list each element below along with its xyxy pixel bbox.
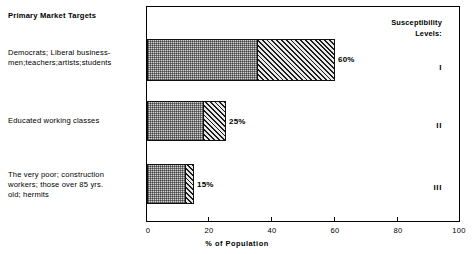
bar-segment-stipple bbox=[148, 40, 257, 80]
bar-segment-hatch bbox=[257, 40, 334, 80]
x-tick-0 bbox=[146, 217, 147, 222]
bar-segment-stipple bbox=[148, 165, 185, 203]
x-tick-40 bbox=[271, 217, 272, 222]
x-tick-label-100: 100 bbox=[452, 226, 465, 235]
x-tick-100 bbox=[459, 217, 460, 222]
bar-segment-hatch bbox=[185, 165, 193, 203]
bar-educated-working-classes bbox=[147, 101, 226, 141]
x-tick-20 bbox=[208, 217, 209, 222]
primary-market-targets-heading: Primary Market Targets bbox=[8, 11, 142, 21]
x-tick-60 bbox=[334, 217, 335, 222]
row-label-educated-working-classes: Educated working classes bbox=[8, 116, 142, 126]
legend-level-iii: III bbox=[402, 183, 442, 192]
x-tick-label-0: 0 bbox=[146, 226, 150, 235]
x-tick-label-60: 60 bbox=[331, 226, 340, 235]
bar-value-very-poor: 15% bbox=[197, 180, 214, 189]
x-tick-80 bbox=[397, 217, 398, 222]
bar-value-democrats: 60% bbox=[338, 55, 355, 64]
bar-segment-hatch bbox=[203, 102, 224, 140]
legend-title: Susceptibility Levels: bbox=[332, 18, 442, 39]
bar-segment-stipple bbox=[148, 102, 203, 140]
bar-very-poor bbox=[147, 164, 194, 204]
x-tick-label-40: 40 bbox=[268, 226, 277, 235]
x-axis-title: % of Population bbox=[0, 239, 474, 248]
x-tick-label-80: 80 bbox=[394, 226, 403, 235]
bar-democrats bbox=[147, 39, 335, 81]
plot-area: Susceptibility Levels: I II III bbox=[146, 6, 460, 222]
x-tick-label-20: 20 bbox=[205, 226, 214, 235]
row-label-democrats: Democrats; Liberal business- men;teacher… bbox=[8, 48, 142, 68]
legend-level-ii: II bbox=[402, 121, 442, 130]
bar-value-educated-working-classes: 25% bbox=[229, 117, 246, 126]
legend-level-i: I bbox=[402, 63, 442, 72]
susceptibility-bar-chart: Primary Market Targets Democrats; Libera… bbox=[0, 0, 474, 254]
row-label-very-poor: The very poor; construction workers; tho… bbox=[8, 170, 142, 201]
